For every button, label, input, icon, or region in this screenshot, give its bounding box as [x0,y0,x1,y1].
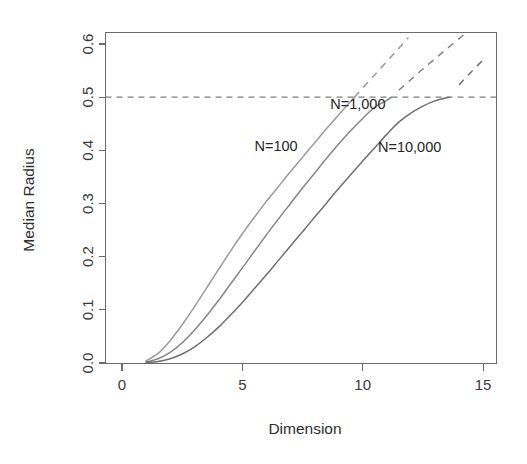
series-label-n-1-000: N=1,000 [330,96,385,112]
y-tick-label: 0.0 [79,353,96,374]
x-tick-label: 5 [238,376,246,393]
y-tick-label: 0.1 [79,299,96,320]
series-label-n-10-000: N=10,000 [378,139,441,155]
series-label-n-100: N=100 [254,138,297,154]
y-tick-label: 0.4 [79,140,96,161]
y-tick-label: 0.5 [79,87,96,108]
y-axis-title: Median Radius [20,148,37,252]
chart-background [0,0,527,464]
x-tick-label: 15 [475,376,492,393]
y-tick-label: 0.3 [79,193,96,214]
median-radius-chart: 051015 0.00.10.20.30.40.50.6 N=100N=1,00… [0,0,527,464]
y-tick-label: 0.2 [79,246,96,267]
x-tick-label: 10 [354,376,371,393]
x-tick-label: 0 [118,376,126,393]
x-axis-title: Dimension [268,420,341,437]
y-tick-label: 0.6 [79,34,96,55]
